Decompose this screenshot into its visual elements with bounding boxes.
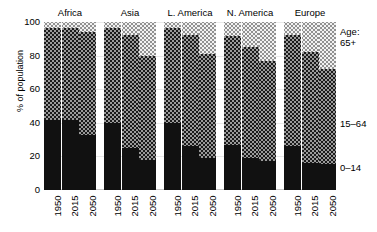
segment-age-15-64[interactable] — [79, 32, 96, 135]
x-tick-label-2050: 2050 — [88, 195, 98, 216]
segment-age-0-14[interactable] — [139, 160, 156, 190]
segment-age-65-plus[interactable] — [79, 22, 96, 32]
y-tick-label-40: 40 — [16, 118, 40, 128]
segment-age-0-14[interactable] — [319, 164, 336, 190]
segment-age-65-plus[interactable] — [139, 22, 156, 56]
segment-age-15-64[interactable] — [319, 69, 336, 164]
x-label-slot: 1950 — [164, 190, 181, 230]
x-label-slot: 2015 — [182, 190, 199, 230]
segment-age-15-64[interactable] — [224, 36, 241, 144]
segment-age-65-plus[interactable] — [242, 22, 259, 47]
segment-age-0-14[interactable] — [224, 145, 241, 190]
legend-label: 65+ — [340, 37, 360, 48]
stacked-bar[interactable] — [319, 22, 336, 190]
segment-age-0-14[interactable] — [199, 158, 216, 190]
legend-item-old-65plus: Age:65+ — [340, 26, 360, 48]
segment-age-15-64[interactable] — [164, 28, 181, 123]
segment-age-0-14[interactable] — [182, 146, 199, 190]
segment-age-65-plus[interactable] — [62, 22, 79, 28]
stacked-bar[interactable] — [224, 22, 241, 190]
x-axis-labels: 195020152050 — [284, 190, 336, 230]
x-label-slot: 2050 — [139, 190, 156, 230]
segment-age-15-64[interactable] — [104, 28, 121, 123]
stacked-bar[interactable] — [104, 22, 121, 190]
segment-age-15-64[interactable] — [284, 35, 301, 146]
stacked-bar[interactable] — [139, 22, 156, 190]
segment-age-15-64[interactable] — [259, 61, 276, 161]
x-label-slot: 2050 — [79, 190, 96, 230]
panel-africa: Africa195020152050 — [44, 22, 96, 190]
segment-age-15-64[interactable] — [44, 28, 61, 120]
segment-age-65-plus[interactable] — [259, 22, 276, 61]
segment-age-0-14[interactable] — [44, 120, 61, 190]
y-axis-ticks: 020406080100 — [14, 0, 40, 232]
legend-item-working-15-64: 15–64 — [340, 118, 366, 129]
stacked-bar[interactable] — [199, 22, 216, 190]
panel-europe: Europe195020152050 — [284, 22, 336, 190]
segment-age-0-14[interactable] — [122, 148, 139, 190]
panel-l-america: L. America195020152050 — [164, 22, 216, 190]
y-tick-label-60: 60 — [16, 84, 40, 94]
bar-group — [284, 22, 336, 190]
segment-age-65-plus[interactable] — [104, 22, 121, 28]
stacked-bar[interactable] — [182, 22, 199, 190]
segment-age-0-14[interactable] — [242, 158, 259, 190]
segment-age-0-14[interactable] — [284, 146, 301, 190]
segment-age-65-plus[interactable] — [302, 22, 319, 52]
segment-age-0-14[interactable] — [62, 120, 79, 190]
x-tick-label-2050: 2050 — [328, 195, 338, 216]
bar-group — [224, 22, 276, 190]
panel-title: N. America — [224, 8, 276, 18]
x-axis-labels: 195020152050 — [164, 190, 216, 230]
segment-age-15-64[interactable] — [62, 28, 79, 120]
x-label-slot: 2050 — [259, 190, 276, 230]
segment-age-15-64[interactable] — [182, 35, 199, 146]
segment-age-15-64[interactable] — [242, 47, 259, 158]
bar-group — [164, 22, 216, 190]
segment-age-15-64[interactable] — [302, 52, 319, 163]
stacked-bar[interactable] — [242, 22, 259, 190]
panel-title: Europe — [284, 8, 336, 18]
x-label-slot: 1950 — [104, 190, 121, 230]
y-tick-label-80: 80 — [16, 51, 40, 61]
segment-age-65-plus[interactable] — [319, 22, 336, 69]
segment-age-15-64[interactable] — [139, 56, 156, 160]
stacked-bar[interactable] — [302, 22, 319, 190]
x-tick-label-2050: 2050 — [208, 195, 218, 216]
segment-age-0-14[interactable] — [104, 123, 121, 190]
stacked-bar[interactable] — [44, 22, 61, 190]
segment-age-65-plus[interactable] — [164, 22, 181, 28]
segment-age-65-plus[interactable] — [224, 22, 241, 36]
age-structure-chart: % of population 020406080100 Africa19502… — [0, 0, 377, 232]
stacked-bar[interactable] — [122, 22, 139, 190]
legend-label: 15–64 — [340, 118, 366, 129]
x-axis-labels: 195020152050 — [104, 190, 156, 230]
legend-label: 0–14 — [340, 162, 361, 173]
segment-age-65-plus[interactable] — [44, 22, 61, 28]
segment-age-0-14[interactable] — [79, 135, 96, 190]
x-label-slot: 2050 — [199, 190, 216, 230]
segment-age-0-14[interactable] — [164, 123, 181, 190]
x-label-slot: 1950 — [44, 190, 61, 230]
stacked-bar[interactable] — [259, 22, 276, 190]
panel-title: Asia — [104, 8, 156, 18]
segment-age-15-64[interactable] — [122, 35, 139, 148]
segment-age-0-14[interactable] — [302, 163, 319, 190]
segment-age-65-plus[interactable] — [122, 22, 139, 35]
bar-group — [104, 22, 156, 190]
segment-age-15-64[interactable] — [199, 54, 216, 158]
stacked-bar[interactable] — [164, 22, 181, 190]
stacked-bar[interactable] — [79, 22, 96, 190]
segment-age-65-plus[interactable] — [182, 22, 199, 35]
x-label-slot: 2050 — [319, 190, 336, 230]
stacked-bar[interactable] — [62, 22, 79, 190]
segment-age-65-plus[interactable] — [284, 22, 301, 35]
stacked-bar[interactable] — [284, 22, 301, 190]
x-tick-label-2050: 2050 — [268, 195, 278, 216]
x-label-slot: 2015 — [302, 190, 319, 230]
segment-age-0-14[interactable] — [259, 161, 276, 190]
y-tick-label-100: 100 — [16, 17, 40, 27]
segment-age-65-plus[interactable] — [199, 22, 216, 54]
x-axis-labels: 195020152050 — [44, 190, 96, 230]
panel-asia: Asia195020152050 — [104, 22, 156, 190]
